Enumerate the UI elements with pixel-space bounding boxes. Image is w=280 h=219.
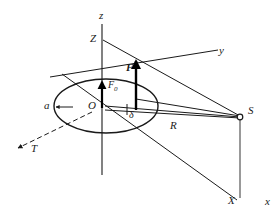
- axis-label-Z-upper: Z: [90, 33, 96, 44]
- radius-label-a: a: [44, 100, 50, 111]
- diagram-canvas: z Z y x X T O a F F0 R δ S: [0, 0, 280, 219]
- axis-label-T: T: [31, 143, 37, 154]
- y-axis-line: [50, 50, 218, 77]
- axis-label-z-lower: z: [99, 10, 103, 21]
- point-label-S: S: [248, 105, 254, 116]
- axis-label-x-lower: x: [265, 196, 270, 207]
- force-label-F0: F0: [108, 80, 118, 93]
- distance-label-R: R: [170, 120, 177, 131]
- x-axis-line: [62, 74, 237, 200]
- force-label-F: F: [126, 62, 133, 73]
- angle-label-delta: δ: [129, 110, 134, 120]
- force-label-F0-subscript: 0: [114, 85, 118, 93]
- axis-label-X-upper: X: [228, 195, 235, 206]
- origin-label-O: O: [88, 100, 96, 111]
- diagram-vector-graphics: [0, 0, 280, 219]
- axis-label-y: y: [219, 45, 224, 56]
- satellite-point-S-marker: [237, 114, 243, 120]
